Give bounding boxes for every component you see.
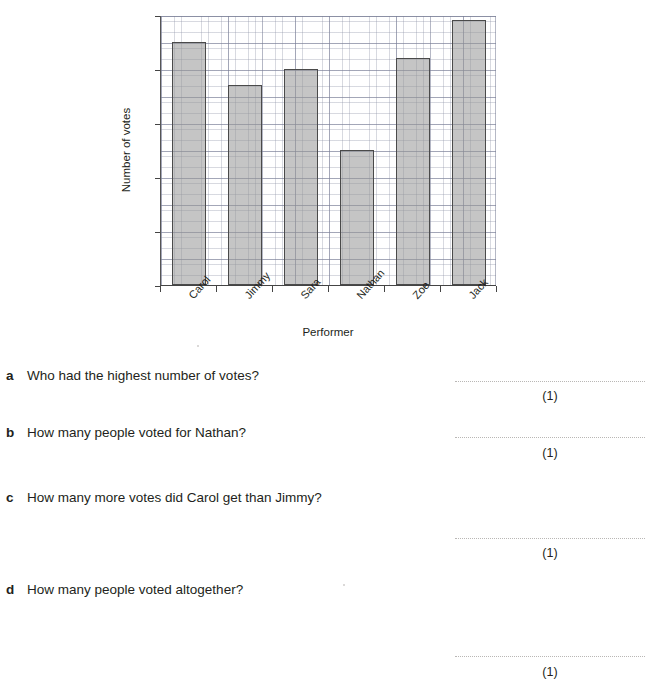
answer-line-d[interactable]	[455, 656, 645, 657]
question-text: How many people voted altogether?	[27, 582, 243, 597]
question-text: Who had the highest number of votes?	[27, 368, 259, 383]
question-c: cHow many more votes did Carol get than …	[6, 490, 436, 507]
plot-top-gridline	[161, 16, 496, 17]
marks-a: (1)	[530, 389, 570, 403]
x-tick-mark	[272, 286, 273, 292]
question-letter: d	[6, 582, 27, 599]
answer-line-a[interactable]	[455, 381, 645, 382]
scan-artifact-dot	[343, 584, 345, 586]
x-tick-mark	[216, 286, 217, 292]
bar-carol	[172, 42, 206, 285]
x-tick-mark	[160, 286, 161, 292]
y-axis-title: Number of votes	[120, 108, 132, 192]
question-b: bHow many people voted for Nathan?	[6, 425, 436, 442]
marks-d: (1)	[530, 665, 570, 679]
marks-c: (1)	[530, 546, 570, 560]
x-axis-title: Performer	[302, 326, 353, 338]
scan-artifact-dot	[197, 345, 199, 347]
plot-right-gridline	[495, 16, 496, 285]
marks-b: (1)	[530, 446, 570, 460]
bar-zoe	[396, 58, 430, 285]
bar-chart-figure: Number of votes 01020304050 CarolJimmySa…	[0, 0, 669, 350]
question-d: dHow many people voted altogether?	[6, 582, 436, 599]
question-text: How many people voted for Nathan?	[27, 425, 246, 440]
question-text: How many more votes did Carol get than J…	[27, 490, 322, 505]
x-tick-mark	[440, 286, 441, 292]
bar-nathan	[340, 150, 374, 285]
bar-sara	[284, 69, 318, 285]
x-tick-mark	[496, 286, 497, 292]
question-a: aWho had the highest number of votes?	[6, 368, 436, 385]
bar-jimmy	[228, 85, 262, 285]
question-letter: a	[6, 368, 27, 385]
bar-jack	[452, 20, 486, 285]
answer-line-c[interactable]	[455, 538, 645, 539]
x-tick-mark	[328, 286, 329, 292]
plot-area	[160, 16, 496, 286]
x-tick-mark	[384, 286, 385, 292]
answer-line-b[interactable]	[455, 437, 645, 438]
question-letter: b	[6, 425, 27, 442]
question-letter: c	[6, 490, 27, 507]
